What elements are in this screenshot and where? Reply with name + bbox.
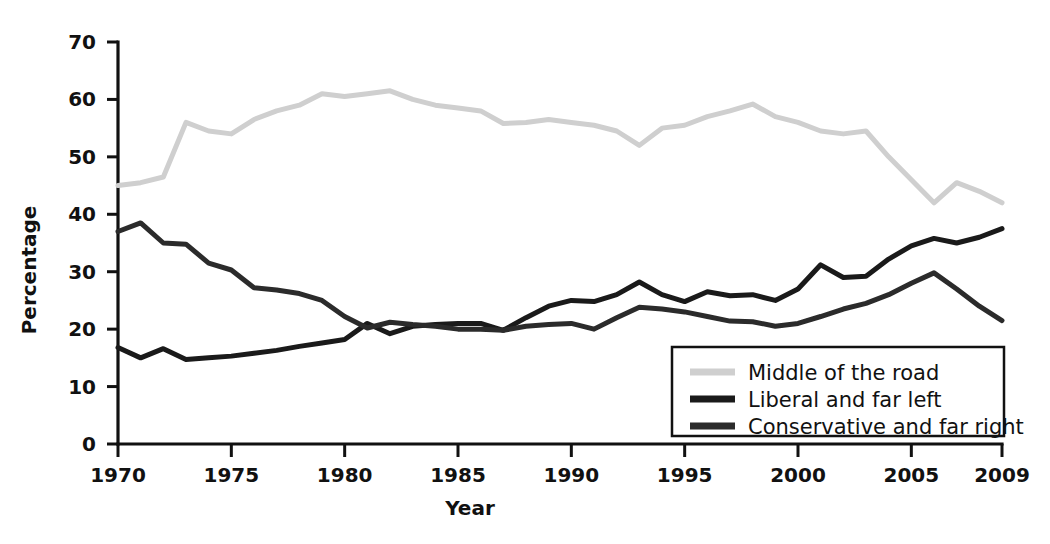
series-lines [118,91,1002,360]
chart-canvas: 010203040506070 197019751980198519901995… [0,0,1050,544]
y-tick-label: 0 [82,432,96,456]
y-tick-label: 60 [68,87,96,111]
x-tick-label: 1990 [543,463,599,487]
x-tick-label: 1975 [203,463,259,487]
legend-label-1: Liberal and far left [748,388,942,412]
x-tick-label: 2000 [770,463,826,487]
y-tick-label: 50 [68,145,96,169]
line-chart: 010203040506070 197019751980198519901995… [0,0,1050,544]
x-axis-title: Year [444,496,495,520]
y-tick-label: 20 [68,317,96,341]
x-axis-tick-labels: 197019751980198519901995200020052009 [90,463,1030,487]
legend-label-2: Conservative and far right [748,415,1024,439]
chart-legend: Middle of the roadLiberal and far leftCo… [672,347,1024,439]
x-tick-label: 2005 [883,463,939,487]
x-tick-label: 1985 [430,463,486,487]
y-axis-title: Percentage [17,206,41,335]
y-tick-label: 30 [68,260,96,284]
series-line-1 [118,229,1002,360]
y-tick-label: 10 [68,375,96,399]
x-tick-label: 1970 [90,463,146,487]
y-tick-label: 70 [68,30,96,54]
legend-label-0: Middle of the road [748,361,939,385]
x-tick-label: 2009 [974,463,1030,487]
series-line-0 [118,91,1002,203]
y-tick-label: 40 [68,202,96,226]
x-axis-ticks [118,444,1002,457]
y-axis-tick-labels: 010203040506070 [68,30,96,456]
x-tick-label: 1980 [317,463,373,487]
x-tick-label: 1995 [657,463,713,487]
y-axis-ticks [107,42,118,444]
